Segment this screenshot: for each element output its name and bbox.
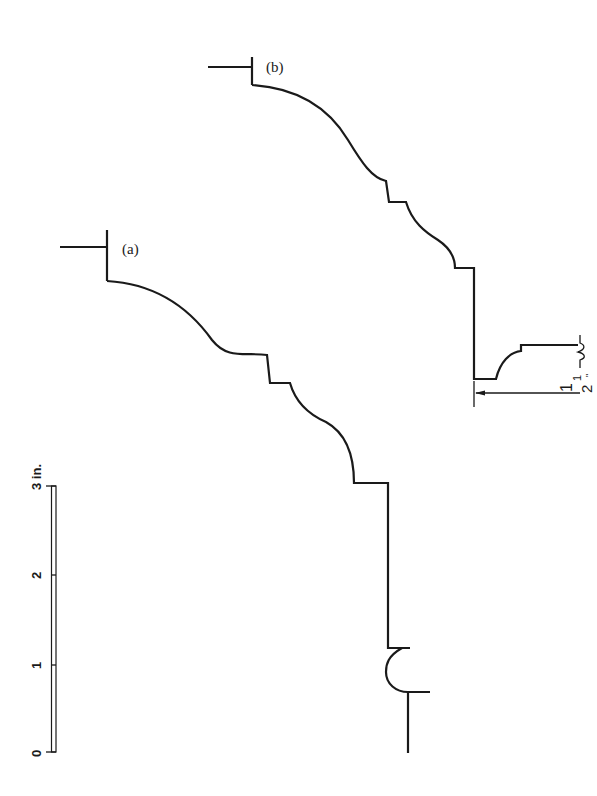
dimension-numerator: 1 bbox=[571, 375, 583, 381]
profile-b-label: (b) bbox=[266, 59, 284, 76]
profile-b-top-return bbox=[208, 57, 252, 85]
profile-a: (a) bbox=[60, 230, 430, 753]
scale-bar-outline bbox=[52, 486, 57, 752]
scale-label-2: 2 bbox=[29, 572, 44, 579]
profile-b-outline bbox=[252, 85, 578, 379]
scale-label-0: 0 bbox=[29, 750, 44, 757]
profile-a-outline bbox=[107, 281, 410, 648]
dimension-whole: 1 bbox=[558, 383, 575, 392]
profile-a-top-return bbox=[60, 230, 107, 281]
scale-bar: 3 in. 2 1 0 bbox=[29, 464, 56, 757]
scale-label-1: 1 bbox=[29, 662, 44, 669]
profile-b-break-symbol bbox=[578, 335, 584, 368]
moulding-profiles-diagram: 1 1 2 " (b) (a) 3 in. 2 1 bbox=[0, 0, 597, 796]
profile-a-label: (a) bbox=[122, 241, 139, 258]
profile-a-bead bbox=[386, 648, 430, 692]
scale-label-3in: 3 in. bbox=[29, 464, 44, 490]
dimension-label: 1 bbox=[558, 383, 575, 392]
dimension-denominator: 2 bbox=[578, 385, 595, 393]
dimension-arrowhead bbox=[475, 391, 485, 396]
dimension-unit: " bbox=[584, 374, 594, 377]
